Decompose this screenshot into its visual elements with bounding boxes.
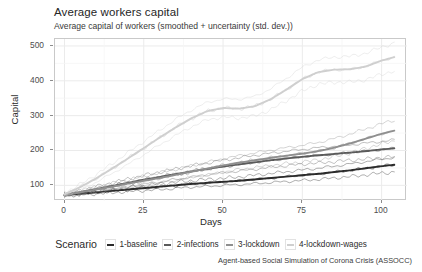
legend-item-1-baseline[interactable]: 1-baseline [105,239,157,250]
y-tick-mark-200 [50,149,53,150]
x-tick-mark-0 [64,200,65,203]
chart-root: Average workers capital Average capital … [0,0,422,272]
x-tick-label-50: 50 [217,205,226,215]
plot-panel [54,38,406,200]
y-axis-title: Capital [9,75,20,145]
y-tick-label-100: 100 [30,179,44,189]
x-tick-mark-75 [301,200,302,203]
y-tick-label-400: 400 [30,75,44,85]
series-lines [55,39,407,201]
x-tick-label-75: 75 [297,205,306,215]
legend-item-label: 4-lockdown-wages [299,240,367,249]
x-tick-mark-25 [143,200,144,203]
legend-item-4-lockdown-wages[interactable]: 4-lockdown-wages [285,239,367,250]
y-tick-mark-100 [50,184,53,185]
x-axis-title: Days [0,216,422,227]
legend-title: Scenario [55,238,97,250]
x-tick-mark-50 [222,200,223,203]
legend-item-label: 3-lockdown [238,240,279,249]
x-tick-label-0: 0 [61,205,66,215]
y-tick-mark-500 [50,45,53,46]
y-tick-label-500: 500 [30,40,44,50]
legend-item-3-lockdown[interactable]: 3-lockdown [224,239,280,250]
legend-item-2-infections[interactable]: 2-infections [162,239,218,250]
legend-item-label: 1-baseline [119,240,157,249]
x-tick-mark-100 [381,200,382,203]
legend-item-label: 2-infections [177,240,219,249]
chart-subtitle: Average capital of workers (smoothed + u… [54,21,293,31]
legend-key-icon [162,239,173,250]
y-axis-ticks: 100200300400500 [0,38,44,200]
y-tick-label-200: 200 [30,144,44,154]
y-tick-mark-400 [50,80,53,81]
legend-key-icon [285,239,296,250]
chart-caption: Agent-based Social Simulation of Corona … [218,256,412,265]
chart-title: Average workers capital [54,6,179,18]
x-tick-label-100: 100 [374,205,388,215]
legend-key-icon [224,239,235,250]
legend: Scenario 1-baseline2-infections3-lockdow… [0,234,422,254]
legend-key-icon [105,239,116,250]
y-tick-label-300: 300 [30,110,44,120]
x-tick-label-25: 25 [138,205,147,215]
y-tick-mark-300 [50,115,53,116]
